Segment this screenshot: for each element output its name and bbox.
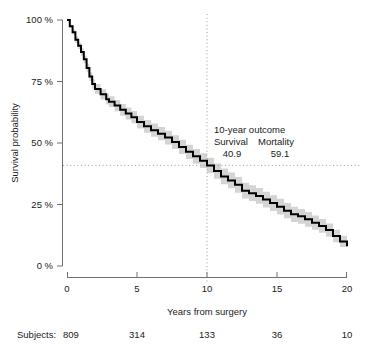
y-axis-title: Survival probability [9,103,20,183]
annotation-survival-label: Survival [214,136,248,147]
y-axis [57,20,63,266]
annotation-mortality-value: 59.1 [271,148,290,159]
x-tick-label: 0 [64,283,69,294]
risk-table-count: 10 [342,329,353,340]
y-axis-tick-labels: 0 %25 %50 %75 %100 % [26,14,53,271]
risk-table-count: 314 [129,329,145,340]
x-tick-label: 10 [202,283,213,294]
risk-table-count: 809 [63,329,79,340]
y-tick-label: 75 % [31,76,53,87]
x-tick-label: 20 [342,283,353,294]
numbers-at-risk-table: Subjects: 8093141333610 [17,329,352,340]
x-axis-title: Years from surgery [167,306,247,317]
x-axis [67,272,347,278]
x-tick-label: 15 [272,283,283,294]
risk-table-row-label: Subjects: [17,329,56,340]
x-tick-label: 5 [134,283,139,294]
y-tick-label: 50 % [31,137,53,148]
annotation-survival-value: 40.9 [223,148,242,159]
y-tick-label: 100 % [26,14,53,25]
x-axis-tick-labels: 05101520 [64,283,352,294]
annotation-mortality-label: Mortality [258,136,294,147]
risk-table-count: 133 [199,329,215,340]
risk-table-count: 36 [272,329,283,340]
kaplan-meier-plot: 0 %25 %50 %75 %100 % 05101520 Survival p… [0,0,367,354]
y-tick-label: 25 % [31,199,53,210]
survival-chart-figure: 0 %25 %50 %75 %100 % 05101520 Survival p… [0,0,367,354]
ten-year-outcome-annotation: 10-year outcome Survival Mortality 40.9 … [214,124,294,159]
y-tick-label: 0 % [37,260,54,271]
annotation-heading: 10-year outcome [214,124,285,135]
